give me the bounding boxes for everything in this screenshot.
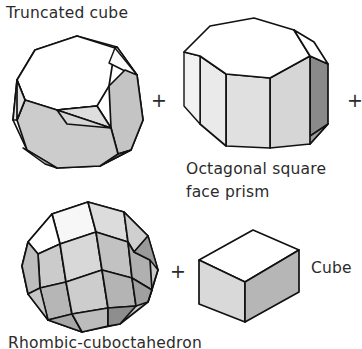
label-octagonal-prism-line2: face prism [186,183,270,202]
truncated-cube-drawing [5,28,153,176]
figure-canvas: Truncated cube Octagonal square face pri… [0,0,362,349]
label-truncated-cube: Truncated cube [6,4,128,23]
plus-operator-2: + [347,91,362,110]
shape-truncated-cube [5,28,153,176]
shape-cube [197,228,309,324]
plus-operator-3: + [170,262,186,281]
plus-operator-1: + [151,91,167,110]
octagonal-prism-drawing [182,16,340,166]
cube-drawing [197,228,309,324]
rhombicuboctahedron-drawing [12,198,168,338]
shape-rhombicuboctahedron [12,198,168,338]
shape-octagonal-prism [182,16,340,166]
label-cube: Cube [311,259,352,278]
